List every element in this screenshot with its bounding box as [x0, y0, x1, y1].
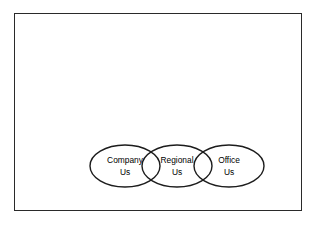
company-label-line1: Company [107, 155, 144, 165]
regional-label-line2: Us [172, 167, 182, 177]
office-label-line2: Us [224, 167, 234, 177]
figure-frame: Company Us Regional Us Office Us [14, 13, 302, 211]
office-label-line1: Office [218, 155, 240, 165]
diagram-svg: Company Us Regional Us Office Us [89, 140, 265, 192]
regional-label-line1: Regional [160, 155, 193, 165]
node-office[interactable]: Office Us [194, 145, 264, 187]
ellipse-chain-diagram: Company Us Regional Us Office Us [89, 140, 265, 192]
company-label-line2: Us [120, 167, 130, 177]
figure-canvas: Company Us Regional Us Office Us [0, 0, 316, 230]
office-ellipse[interactable] [194, 145, 264, 187]
